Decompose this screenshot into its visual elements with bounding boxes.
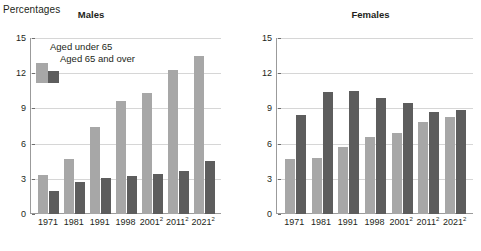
bar — [194, 56, 204, 214]
bar — [376, 98, 386, 214]
y-tick-label: 15 — [16, 33, 31, 43]
x-tick-label: 1991 — [87, 217, 113, 235]
chart-panel-females: Females 15 12 9 6 3 0 197119811991199820… — [236, 0, 481, 251]
bar — [418, 122, 428, 214]
x-tick-label: 1981 — [61, 217, 87, 235]
bar — [429, 112, 439, 214]
bar — [392, 133, 402, 214]
bar — [179, 171, 189, 214]
bar-group — [139, 38, 165, 214]
x-tick-label: 1998 — [361, 217, 388, 235]
x-tick-label: 1998 — [113, 217, 139, 235]
panel-title-males: Males — [0, 9, 209, 20]
bar — [75, 182, 85, 214]
y-tick-label: 6 — [267, 139, 277, 149]
bar — [349, 91, 359, 214]
y-tick-label: 6 — [21, 139, 31, 149]
x-tick-label: 1981 — [308, 217, 335, 235]
y-tick-label: 9 — [267, 103, 277, 113]
bar — [127, 176, 137, 214]
bar-group — [416, 38, 443, 214]
bar — [38, 175, 48, 214]
x-tick-label: 20012 — [388, 217, 415, 235]
bar — [153, 174, 163, 214]
x-tick-label: 20212 — [441, 217, 468, 235]
x-tick-footnote-marker: 2 — [436, 216, 439, 222]
bar — [116, 101, 126, 214]
x-tick-label: 20012 — [138, 217, 164, 235]
chart-panel-males: Males 15 12 9 6 3 0 19711981199119982001… — [0, 0, 236, 251]
bar-group — [165, 38, 191, 214]
bar — [365, 137, 375, 214]
bar-group — [282, 38, 309, 214]
bar-group — [389, 38, 416, 214]
x-tick-label: 20112 — [415, 217, 442, 235]
panel-title-females: Females — [248, 9, 481, 20]
bar — [90, 127, 100, 214]
bar — [285, 159, 295, 214]
x-tick-label: 1971 — [281, 217, 308, 235]
legend-label-65-over: Aged 65 and over — [60, 54, 135, 65]
legend-swatch-65-over-icon — [48, 71, 59, 83]
x-tick-footnote-marker: 2 — [160, 216, 163, 222]
bar-group — [191, 38, 217, 214]
x-tick-label: 20212 — [190, 217, 216, 235]
bar — [403, 103, 413, 214]
bar — [64, 159, 74, 214]
bar-group — [335, 38, 362, 214]
y-tick-label: 3 — [267, 174, 277, 184]
y-tick-label: 3 — [21, 174, 31, 184]
y-tick-label: 15 — [262, 33, 277, 43]
bar — [205, 161, 215, 214]
bar — [296, 115, 306, 214]
x-tick-label: 1991 — [334, 217, 361, 235]
chart-figure: Percentages Males 15 12 9 6 3 0 19711981… — [0, 0, 481, 251]
bar — [445, 117, 455, 214]
legend-swatch-under-65-icon — [36, 63, 48, 83]
legend-label-under-65: Aged under 65 — [50, 42, 112, 53]
x-tick-footnote-marker: 2 — [410, 216, 413, 222]
bar — [142, 93, 152, 214]
bar-group — [442, 38, 469, 214]
bar — [312, 158, 322, 214]
bar-group — [309, 38, 336, 214]
bar — [101, 178, 111, 214]
y-tick-label: 9 — [21, 103, 31, 113]
y-tick-label: 12 — [16, 68, 31, 78]
bar — [338, 147, 348, 214]
bar-group — [362, 38, 389, 214]
x-tick-label: 20112 — [164, 217, 190, 235]
x-tick-footnote-marker: 2 — [463, 216, 466, 222]
y-tick-label: 12 — [262, 68, 277, 78]
x-tick-footnote-marker: 2 — [185, 216, 188, 222]
plot-area-females: 15 12 9 6 3 0 — [276, 38, 473, 214]
bar — [168, 70, 178, 214]
x-axis-labels-females: 1971198119911998200122011220212 — [276, 217, 472, 235]
bar — [456, 110, 466, 214]
x-tick-label: 1971 — [35, 217, 61, 235]
bar — [323, 92, 333, 214]
x-axis-labels-males: 1971198119911998200122011220212 — [30, 217, 220, 235]
bar — [49, 191, 59, 214]
x-tick-footnote-marker: 2 — [211, 216, 214, 222]
bar-groups-females — [277, 38, 473, 214]
